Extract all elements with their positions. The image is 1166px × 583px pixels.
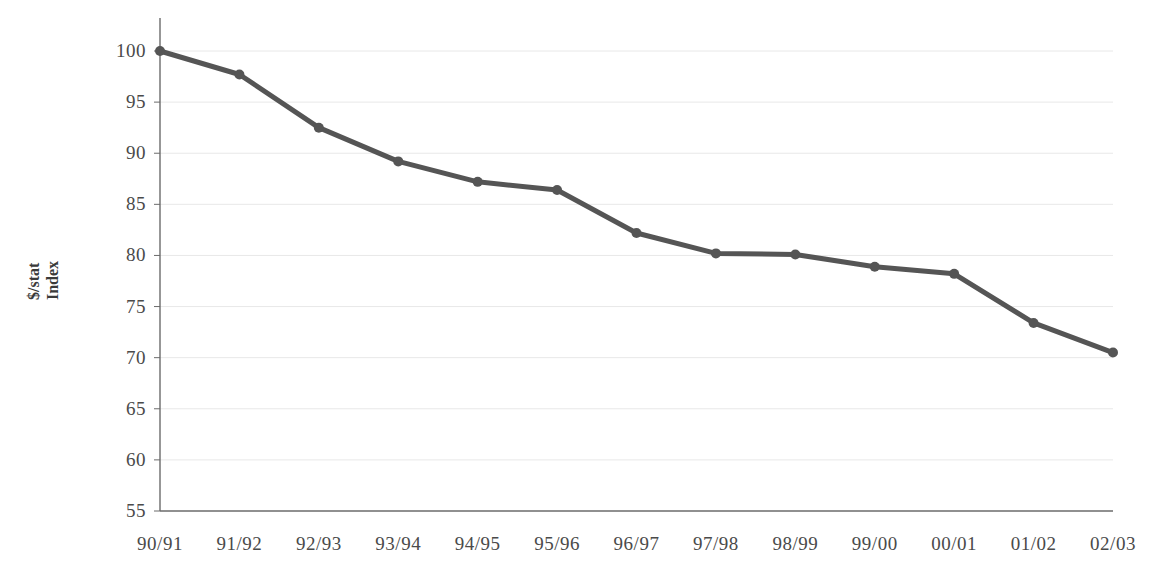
gridlines — [160, 51, 1113, 460]
data-point-marker — [870, 262, 880, 272]
data-point-marker — [314, 123, 324, 133]
data-point-markers — [155, 46, 1118, 358]
data-point-marker — [790, 249, 800, 259]
x-tick-label: 98/99 — [772, 533, 818, 555]
x-tick-label: 95/96 — [534, 533, 580, 555]
data-point-marker — [949, 269, 959, 279]
x-tick-label: 02/03 — [1090, 533, 1136, 555]
x-tick-label: 90/91 — [137, 533, 183, 555]
x-tick-label: 93/94 — [375, 533, 421, 555]
line-chart: $/stat Index 556065707580859095100 90/91… — [0, 0, 1166, 583]
x-tick-label: 97/98 — [693, 533, 739, 555]
x-tick-label: 94/95 — [455, 533, 501, 555]
data-point-marker — [155, 46, 165, 56]
axis-ticks — [154, 51, 160, 511]
data-point-marker — [711, 248, 721, 258]
data-point-marker — [1029, 318, 1039, 328]
x-tick-label: 99/00 — [852, 533, 898, 555]
data-point-marker — [234, 70, 244, 80]
x-axis-tick-labels: 90/9191/9292/9393/9494/9595/9696/9797/98… — [0, 533, 1166, 573]
x-tick-label: 91/92 — [217, 533, 263, 555]
data-series-line — [160, 51, 1113, 353]
x-tick-label: 01/02 — [1011, 533, 1057, 555]
data-point-marker — [393, 156, 403, 166]
data-point-marker — [473, 177, 483, 187]
plot-area — [0, 0, 1166, 583]
x-tick-label: 96/97 — [614, 533, 660, 555]
data-point-marker — [632, 228, 642, 238]
x-tick-label: 00/01 — [931, 533, 977, 555]
data-point-marker — [1108, 348, 1118, 358]
axis-lines — [160, 18, 1113, 511]
x-tick-label: 92/93 — [296, 533, 342, 555]
data-point-marker — [552, 185, 562, 195]
